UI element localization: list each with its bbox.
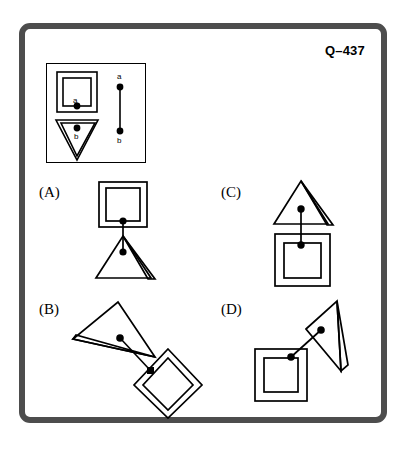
key-node-b-label: b (74, 132, 79, 141)
option-b-diamond-dot (147, 367, 154, 374)
option-d-nested-square (255, 349, 307, 401)
option-figure-b[interactable] (63, 297, 203, 417)
option-d-nested-triangle (306, 301, 348, 371)
option-a-triangle-dot (119, 248, 126, 255)
key-node-b-dot (74, 125, 81, 132)
option-c-nested-triangle-up (274, 181, 333, 225)
key-connector-dot-a (117, 84, 124, 91)
key-node-a-nested-square: a (57, 72, 97, 112)
key-connector-dot-b (117, 128, 124, 135)
option-figure-c[interactable] (265, 177, 355, 292)
option-a-svg (85, 179, 175, 289)
option-label-b: (B) (39, 301, 59, 318)
option-d-connector (291, 330, 321, 357)
option-label-a: (A) (39, 184, 60, 201)
key-panel: a b a b (46, 63, 146, 163)
key-connector-label-a: a (117, 72, 122, 81)
option-b-svg (63, 297, 203, 417)
option-figure-a[interactable] (85, 179, 175, 289)
option-c-svg (265, 177, 355, 292)
option-b-nested-diamond (134, 349, 202, 418)
option-figure-d[interactable] (253, 297, 393, 412)
question-id-label: Q–437 (325, 43, 365, 58)
option-c-square-dot (297, 241, 304, 248)
option-d-svg (253, 297, 393, 412)
key-connector-label-b: b (117, 136, 122, 145)
key-node-b-nested-triangle-down: b (56, 120, 98, 160)
option-label-c: (C) (221, 184, 241, 201)
question-page: Q–437 a b (0, 0, 416, 452)
option-label-d: (D) (221, 301, 242, 318)
option-c-nested-square (275, 234, 330, 286)
key-node-a-label: a (73, 96, 78, 105)
option-d-square-dot (287, 353, 295, 361)
option-a-nested-triangle-up (96, 236, 155, 279)
option-a-nested-square (99, 182, 147, 227)
page-frame-border: Q–437 a b (19, 23, 387, 423)
key-panel-svg: a b a b (47, 64, 147, 164)
option-b-nested-triangle (73, 302, 155, 357)
key-connector-a-b: a b (117, 72, 124, 145)
